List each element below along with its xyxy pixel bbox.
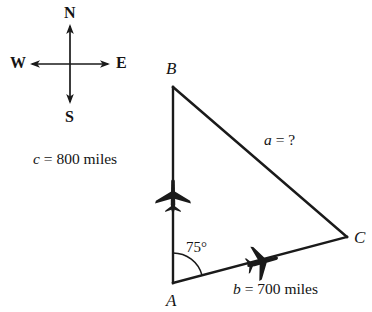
compass-label-south: S bbox=[65, 109, 74, 125]
compass-rose bbox=[30, 24, 110, 104]
side-label-c: c = 800 miles bbox=[33, 151, 117, 167]
figure-root: N S E W B A C a = ? b = 700 miles c = 80… bbox=[0, 0, 372, 312]
angle-arc-path bbox=[173, 253, 202, 275]
vertex-label-b: B bbox=[166, 60, 176, 77]
side-c-variable: c bbox=[33, 150, 40, 167]
side-c-value: 800 miles bbox=[56, 150, 117, 167]
compass-label-east: E bbox=[116, 55, 127, 71]
side-b-equals: = bbox=[245, 280, 254, 297]
side-label-a: a = ? bbox=[264, 132, 295, 148]
side-a-equals: = bbox=[276, 131, 285, 148]
compass-label-west: W bbox=[10, 55, 26, 71]
angle-arc-at-a bbox=[173, 253, 202, 275]
side-label-b: b = 700 miles bbox=[233, 281, 318, 297]
triangle-side-a bbox=[173, 87, 347, 237]
vertex-label-a: A bbox=[166, 292, 176, 309]
compass-label-north: N bbox=[64, 5, 76, 21]
angle-label-a: 75° bbox=[186, 240, 207, 255]
side-c-equals: = bbox=[44, 150, 53, 167]
airplane-icon-side-b bbox=[242, 241, 282, 283]
side-b-variable: b bbox=[233, 280, 241, 297]
side-a-value: ? bbox=[288, 131, 295, 148]
side-a-variable: a bbox=[264, 131, 272, 148]
airplane-icon-side-c bbox=[155, 179, 191, 212]
vertex-label-c: C bbox=[354, 229, 365, 246]
side-b-value: 700 miles bbox=[257, 280, 318, 297]
